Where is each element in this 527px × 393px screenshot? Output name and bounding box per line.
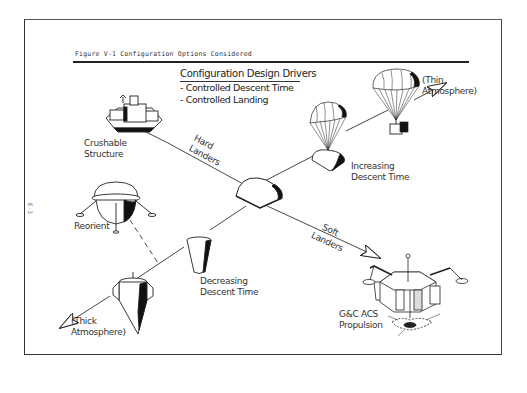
reorient-dashed-line xyxy=(130,220,158,263)
decreasing-descent-label-line2: Descent Time xyxy=(200,287,258,297)
reorient-label: Reorient xyxy=(74,221,109,231)
soft-lander-label-line1: G&C ACS xyxy=(339,309,378,319)
decreasing-descent-probe-icon xyxy=(187,237,211,274)
decreasing-descent-label-line1: Decreasing xyxy=(200,276,248,286)
decreasing-axis-a xyxy=(210,206,246,230)
crushable-label-line2: Structure xyxy=(84,149,123,159)
soft-lander-label-line2: Propulsion xyxy=(339,320,383,330)
thin-atmosphere-label-line1: (Thin xyxy=(422,75,443,85)
decreasing-axis-b xyxy=(130,247,184,283)
thick-atmosphere-label-line1: (Thick xyxy=(71,316,97,326)
increasing-descent-label-line1: Increasing xyxy=(351,161,394,171)
parachute-probe-icon xyxy=(310,102,346,171)
increasing-axis-b xyxy=(346,110,388,131)
thick-atmosphere-probe-icon xyxy=(113,272,153,334)
crushable-label-line1: Crushable xyxy=(84,138,127,148)
central-entry-capsule xyxy=(236,178,282,208)
thin-atmosphere-label-line2: Atmosphere) xyxy=(422,86,477,96)
increasing-descent-label-line2: Descent Time xyxy=(351,172,409,182)
crushable-structure-icon xyxy=(106,95,162,132)
thick-atmosphere-label-line2: Atmosphere) xyxy=(71,327,126,337)
thin-atmosphere-parachute-icon xyxy=(373,69,419,134)
